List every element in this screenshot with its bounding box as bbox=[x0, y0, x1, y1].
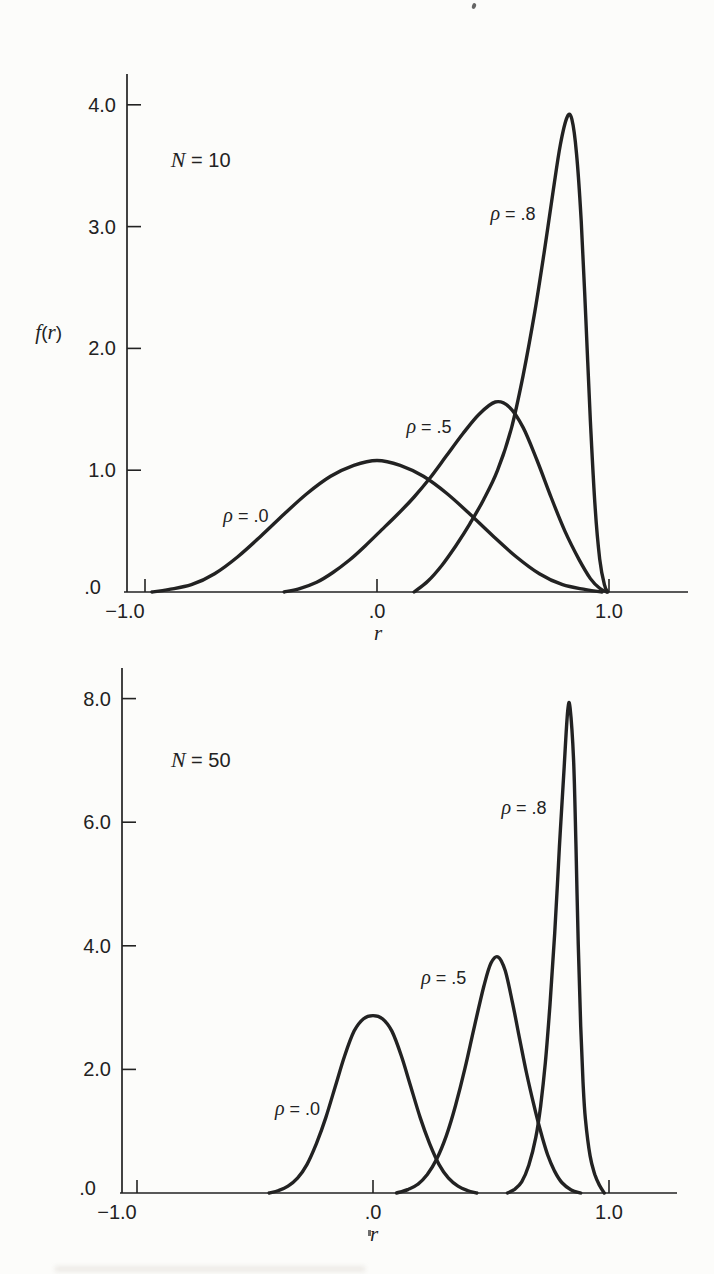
x-tick-label: −1.0 bbox=[97, 1201, 136, 1223]
print-artifact-speck bbox=[368, 1230, 371, 1236]
curve-rho-0.8 bbox=[508, 703, 605, 1193]
x-tick-label: −1.0 bbox=[105, 600, 144, 622]
y-tick-label: 4.0 bbox=[83, 935, 111, 957]
chart-n10: 4.03.02.01.0.0−1.0.01.0rf(r)N = 10ρ = .0… bbox=[35, 74, 688, 645]
curve-label-rho-0.8: ρ = .8 bbox=[500, 796, 546, 819]
y-tick-label: 1.0 bbox=[88, 459, 116, 481]
y-tick-label: 6.0 bbox=[83, 811, 111, 833]
y-tick-label: .0 bbox=[84, 576, 101, 598]
curve-label-rho-0.5: ρ = .5 bbox=[405, 415, 451, 438]
curve-label-rho-0.0: ρ = .0 bbox=[274, 1097, 320, 1120]
curve-rho-0.8 bbox=[414, 114, 608, 592]
curve-label-rho-0.5: ρ = .5 bbox=[420, 966, 466, 989]
scanned-figure-page: 4.03.02.01.0.0−1.0.01.0rf(r)N = 10ρ = .0… bbox=[0, 0, 714, 1274]
x-tick-label: 1.0 bbox=[595, 1201, 623, 1223]
sample-size-label: N = 10 bbox=[170, 147, 231, 172]
x-tick-label: .0 bbox=[369, 600, 386, 622]
x-tick-label: .0 bbox=[365, 1201, 382, 1223]
print-artifact-smudge bbox=[55, 1266, 365, 1272]
curve-label-rho-0.0: ρ = .0 bbox=[222, 504, 268, 527]
y-tick-label: 4.0 bbox=[88, 94, 116, 116]
curve-label-rho-0.8: ρ = .8 bbox=[489, 202, 535, 225]
y-tick-label: 3.0 bbox=[88, 216, 116, 238]
curve-rho-0.0 bbox=[152, 461, 602, 593]
y-axis-label: f(r) bbox=[35, 320, 62, 344]
x-axis-label: r bbox=[370, 1222, 379, 1246]
curve-rho-0.5 bbox=[397, 957, 581, 1193]
sample-size-label: N = 50 bbox=[170, 747, 231, 772]
y-tick-label: 2.0 bbox=[83, 1058, 111, 1080]
figure-svg: 4.03.02.01.0.0−1.0.01.0rf(r)N = 10ρ = .0… bbox=[0, 0, 714, 1274]
y-tick-label: .0 bbox=[79, 1177, 96, 1199]
y-tick-label: 8.0 bbox=[83, 688, 111, 710]
x-tick-label: 1.0 bbox=[595, 600, 623, 622]
chart-n50: 8.06.04.02.0.0−1.0.01.0rN = 50ρ = .0ρ = … bbox=[79, 668, 677, 1246]
x-axis-label: r bbox=[374, 621, 383, 645]
y-tick-label: 2.0 bbox=[88, 337, 116, 359]
